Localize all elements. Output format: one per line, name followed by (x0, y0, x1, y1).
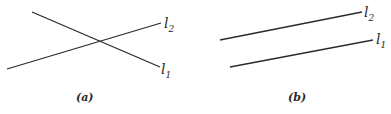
label-l2-b: l2 (364, 4, 374, 23)
panel-a: l2 l1 (a) (7, 12, 174, 104)
label-l2-a: l2 (164, 15, 174, 34)
line-l2-b (220, 12, 362, 40)
line-l1-a (32, 12, 160, 67)
line-l2-a (7, 23, 161, 69)
panel-b: l2 l1 (b) (220, 4, 386, 104)
figure-canvas: l2 l1 (a) l2 l1 (b) (0, 0, 391, 114)
label-l1-b: l1 (376, 31, 386, 50)
caption-b: (b) (288, 91, 306, 104)
label-l1-a: l1 (161, 61, 171, 80)
line-l1-b (230, 40, 373, 67)
caption-a: (a) (76, 91, 94, 104)
